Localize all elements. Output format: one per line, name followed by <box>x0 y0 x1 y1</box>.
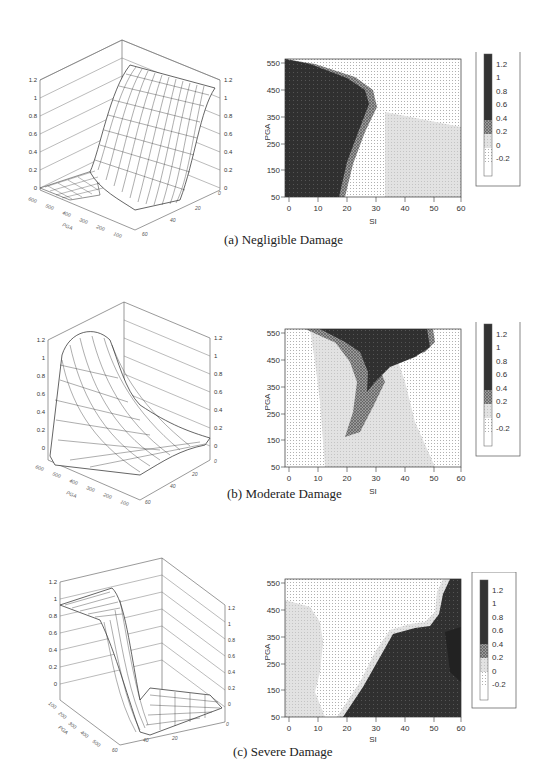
svg-text:1: 1 <box>34 95 38 101</box>
svg-text:300: 300 <box>67 720 77 730</box>
svg-text:150: 150 <box>267 166 281 175</box>
caption-b: (b) Moderate Damage <box>227 486 342 502</box>
svg-text:30: 30 <box>372 204 381 213</box>
svg-text:40: 40 <box>401 474 410 483</box>
svg-text:-0.2: -0.2 <box>492 680 506 689</box>
svg-text:0: 0 <box>42 445 46 451</box>
svg-text:550: 550 <box>267 329 281 338</box>
svg-text:100: 100 <box>113 230 123 239</box>
svg-text:1: 1 <box>228 621 231 627</box>
svg-text:50: 50 <box>430 724 439 733</box>
svg-text:60: 60 <box>112 747 118 753</box>
colorbar-a: 1.2 1 0.8 0.6 0.4 0.2 0 -0.2 <box>476 52 520 186</box>
svg-text:50: 50 <box>271 463 280 472</box>
svg-text:PGA: PGA <box>57 724 70 736</box>
svg-text:0.4: 0.4 <box>496 384 508 393</box>
svg-text:0.4: 0.4 <box>496 114 508 123</box>
svg-text:0.8: 0.8 <box>224 113 233 119</box>
svg-text:40: 40 <box>170 483 176 489</box>
svg-text:450: 450 <box>267 356 281 365</box>
svg-text:60: 60 <box>145 499 151 505</box>
svg-text:400: 400 <box>69 477 79 486</box>
svg-text:1: 1 <box>496 343 501 352</box>
svg-text:1: 1 <box>492 599 497 608</box>
svg-text:500: 500 <box>91 738 101 748</box>
svg-text:1: 1 <box>214 353 218 359</box>
contour-plot-b: 550 450 350 250 150 50 0 10 20 30 40 50 … <box>265 322 545 502</box>
svg-text:10: 10 <box>314 724 323 733</box>
svg-text:1.2: 1.2 <box>228 605 235 611</box>
svg-text:40: 40 <box>143 737 149 743</box>
svg-text:0.2: 0.2 <box>29 167 38 173</box>
svg-text:500: 500 <box>45 202 55 211</box>
svg-text:0.2: 0.2 <box>496 397 508 406</box>
svg-text:200: 200 <box>102 491 113 500</box>
svg-text:0.4: 0.4 <box>29 149 38 155</box>
svg-text:PGA: PGA <box>265 123 272 141</box>
svg-text:0.6: 0.6 <box>496 370 508 379</box>
svg-text:0: 0 <box>214 443 218 449</box>
svg-text:1: 1 <box>496 73 501 82</box>
svg-text:150: 150 <box>267 436 281 445</box>
svg-text:0.2: 0.2 <box>49 664 58 670</box>
svg-text:1.2: 1.2 <box>224 77 233 83</box>
svg-text:0.8: 0.8 <box>228 637 235 643</box>
svg-text:PGA: PGA <box>265 393 272 411</box>
svg-text:20: 20 <box>343 474 352 483</box>
svg-text:1: 1 <box>54 596 58 602</box>
svg-text:40: 40 <box>170 217 176 223</box>
svg-text:40: 40 <box>401 724 410 733</box>
svg-text:60: 60 <box>457 204 466 213</box>
svg-text:200: 200 <box>95 223 106 232</box>
svg-text:0: 0 <box>496 411 501 420</box>
svg-text:0.4: 0.4 <box>492 640 504 649</box>
svg-text:0: 0 <box>34 185 38 191</box>
svg-text:200: 200 <box>57 709 68 720</box>
svg-text:0: 0 <box>224 185 228 191</box>
svg-text:50: 50 <box>430 474 439 483</box>
svg-text:0.8: 0.8 <box>37 373 46 379</box>
svg-text:150: 150 <box>267 686 281 695</box>
svg-text:0.8: 0.8 <box>492 613 504 622</box>
svg-text:1.2: 1.2 <box>49 579 58 585</box>
svg-text:-0.2: -0.2 <box>496 424 510 433</box>
svg-text:500: 500 <box>52 470 62 479</box>
svg-text:0.6: 0.6 <box>492 626 504 635</box>
contour-plot-c: 550 450 350 250 150 50 0 10 20 30 40 50 … <box>265 572 545 752</box>
svg-text:0: 0 <box>228 701 231 707</box>
svg-text:20: 20 <box>171 735 178 741</box>
svg-text:20: 20 <box>191 471 198 477</box>
colorbar-c: 1.2 1 0.8 0.6 0.4 0.2 0 -0.2 <box>472 572 516 708</box>
svg-text:0.8: 0.8 <box>496 87 508 96</box>
svg-text:0.6: 0.6 <box>29 131 38 137</box>
svg-text:0.6: 0.6 <box>224 131 233 137</box>
svg-text:PGA: PGA <box>66 489 79 499</box>
svg-text:0.8: 0.8 <box>214 371 223 377</box>
svg-text:0.6: 0.6 <box>496 100 508 109</box>
svg-text:300: 300 <box>79 216 89 225</box>
svg-text:50: 50 <box>430 204 439 213</box>
svg-text:600: 600 <box>35 463 45 472</box>
svg-text:10: 10 <box>314 474 323 483</box>
svg-text:100: 100 <box>120 498 130 507</box>
svg-text:0.4: 0.4 <box>224 149 233 155</box>
svg-text:350: 350 <box>267 113 281 122</box>
svg-text:1.2: 1.2 <box>492 586 504 595</box>
contour-plot-a: 550 450 350 250 150 50 0 10 20 30 40 50 … <box>265 52 545 232</box>
svg-text:20: 20 <box>194 205 201 211</box>
svg-text:0: 0 <box>287 474 292 483</box>
svg-text:0: 0 <box>287 204 292 213</box>
svg-text:0.6: 0.6 <box>49 630 58 636</box>
svg-text:0.2: 0.2 <box>37 427 46 433</box>
svg-text:300: 300 <box>86 484 96 493</box>
svg-text:0.2: 0.2 <box>228 685 235 691</box>
svg-text:-0.2: -0.2 <box>496 154 510 163</box>
svg-text:0.6: 0.6 <box>214 389 223 395</box>
svg-text:0.2: 0.2 <box>496 127 508 136</box>
panel-c: 1.2 1 0.8 0.6 0.4 0.2 0 1.2 1 0.8 0.6 0.… <box>0 530 545 784</box>
svg-text:1: 1 <box>42 355 46 361</box>
panel-b: 1.2 1 0.8 0.6 0.4 0.2 0 1.2 1 0.8 0.6 0.… <box>0 260 545 530</box>
svg-text:60: 60 <box>142 231 148 237</box>
svg-text:1.2: 1.2 <box>496 60 508 69</box>
svg-text:550: 550 <box>267 579 281 588</box>
